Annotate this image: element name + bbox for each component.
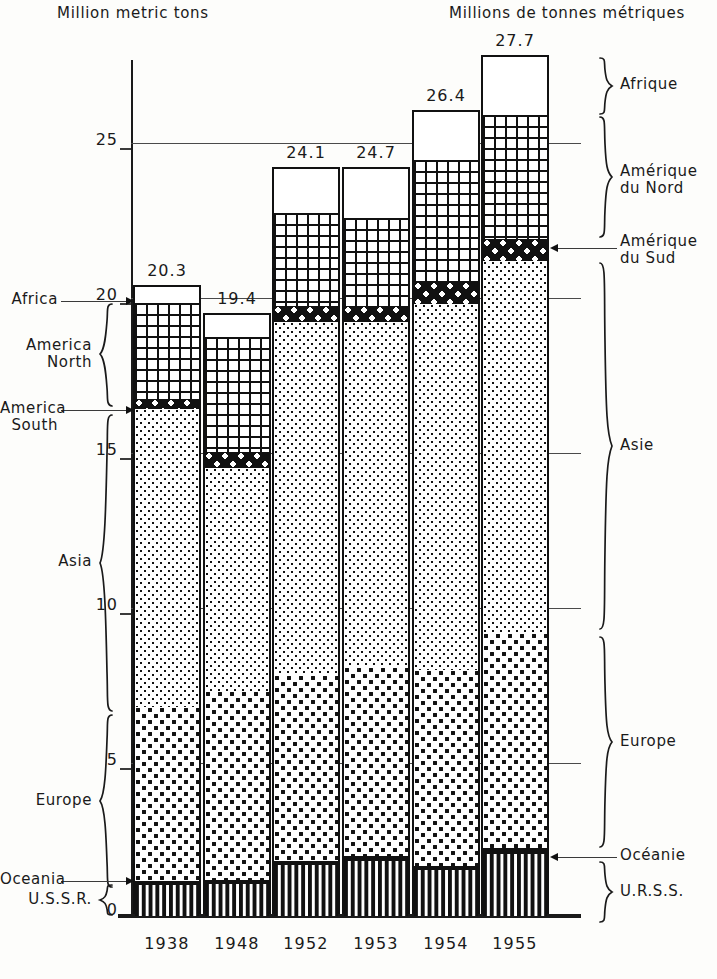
bar-1955-segment-asia [483,261,547,633]
legend-left-leader-africa [61,301,131,302]
y-tick-mark-5 [120,768,131,770]
chart-title-right: Millions de tonnes métriques [449,4,685,22]
bar-1953-segment-ussr [344,861,408,916]
bar-1954-segment-europe [414,670,478,866]
bar-1953-segment-america-south [344,306,408,322]
legend-right-label-amerique-nord-line2: du Nord [620,179,684,197]
bar-1948-segment-europe [205,691,269,880]
legend-left-brace-asia [98,414,114,712]
x-tick-label-1938: 1938 [129,934,205,953]
legend-right-label-amerique-nord-line1: Amérique [620,162,698,180]
bar-1952-total-label: 24.1 [272,143,340,162]
legend-right-label-amerique-nord: Amériquedu Nord [620,163,717,197]
bar-1952-segment-america-north [274,213,338,306]
bar-1953[interactable] [342,167,410,914]
bar-1948-segment-asia [205,468,269,691]
legend-left-label-america-north-line2: North [47,353,92,371]
legend-left-brace-ussr [98,884,114,916]
bar-1953-segment-america-north [344,218,408,306]
bar-1955-total-label: 27.7 [481,31,549,50]
x-tick-label-1952: 1952 [268,934,344,953]
bar-1955-segment-europe [483,633,547,848]
bar-1948-segment-america-south [205,452,269,468]
bar-1953-total-label: 24.7 [342,143,410,162]
bar-1938-segment-ussr [135,885,199,916]
legend-left-label-europe: Europe [0,792,92,809]
bar-1955-segment-america-south [483,239,547,261]
bar-1952-segment-africa [274,169,338,213]
bar-1938[interactable] [133,285,201,914]
bar-1954-total-label: 26.4 [412,86,480,105]
bar-1952-segment-europe [274,675,338,861]
legend-right-label-amerique-sud: Amériquedu Sud [620,233,717,267]
y-tick-mark-10 [120,613,131,615]
bar-1948-total-label: 19.4 [203,289,271,308]
legend-right-brace-amerique-nord [598,116,614,238]
legend-right-brace-europe [598,636,614,848]
x-tick-label-1954: 1954 [408,934,484,953]
bar-1948-segment-america-north [205,337,269,452]
legend-right-label-amerique-sud-line1: Amérique [620,232,698,250]
legend-right-brace-afrique [598,57,614,115]
bar-1938-total-label: 20.3 [133,261,201,280]
legend-right-label-europe: Europe [620,733,717,750]
legend-left-label-america-south-line2: South [11,416,58,434]
legend-left-arrow-america-south [126,406,134,414]
legend-left-label-asia: Asia [0,553,92,570]
legend-left-arrow-africa [126,297,134,305]
x-tick-label-1953: 1953 [338,934,414,953]
bar-1953-segment-europe [344,667,408,856]
legend-right-label-oceanie: Océanie [620,847,717,864]
bar-1954-segment-ussr [414,870,478,916]
legend-left-brace-europe [98,714,114,888]
bar-1953-segment-africa [344,169,408,218]
legend-left-label-america-north: AmericaNorth [0,337,92,371]
legend-right-arrow-amerique-sud [550,244,558,252]
legend-left-leader-oceania [61,881,131,882]
legend-right-label-afrique: Afrique [620,76,717,93]
legend-left-label-america-south-line1: America [0,399,66,417]
chart-canvas: Million metric tons Millions de tonnes m… [0,0,717,979]
bar-1954-segment-america-north [414,160,478,282]
y-tick-mark-25 [120,148,131,150]
bar-1952-segment-asia [274,322,338,675]
bar-1938-segment-america-south [135,399,199,409]
bar-1955-segment-ussr [483,854,547,916]
bar-1954-segment-america-south [414,282,478,304]
legend-right-arrow-oceanie [550,853,558,861]
bar-1948-segment-ussr [205,884,269,916]
bar-1938-segment-america-north [135,303,199,399]
bar-1952[interactable] [272,167,340,914]
bar-1955-segment-africa [483,57,547,115]
bar-1955[interactable] [481,55,549,914]
bar-1938-segment-africa [135,287,199,303]
bar-1954-segment-africa [414,112,478,160]
bar-1948-segment-africa [205,315,269,337]
y-tick-label-25: 25 [78,130,118,149]
legend-left-brace-america-north [98,303,114,407]
legend-left-label-oceania: Oceania [0,871,58,888]
legend-right-leader-amerique-sud [557,248,617,249]
legend-right-label-amerique-sud-line2: du Sud [620,249,676,267]
bar-1954[interactable] [412,110,480,914]
chart-title-left: Million metric tons [57,4,209,22]
legend-left-arrow-oceania [126,877,134,885]
bar-1938-segment-europe [135,707,199,881]
legend-right-brace-asie [598,262,614,630]
legend-right-leader-oceanie [557,857,617,858]
legend-left-label-africa: Africa [0,291,58,308]
bar-1955-segment-america-north [483,115,547,239]
legend-left-label-america-north-line1: America [26,336,92,354]
bar-1948[interactable] [203,313,271,914]
legend-right-label-urss: U.R.S.S. [620,883,717,900]
legend-left-label-america-south: AmericaSouth [0,400,58,434]
x-tick-label-1948: 1948 [199,934,275,953]
bar-1938-segment-asia [135,409,199,707]
bar-1952-segment-ussr [274,865,338,916]
bar-1954-segment-asia [414,304,478,670]
legend-right-label-asie: Asie [620,437,717,454]
legend-right-brace-urss [598,861,614,923]
x-tick-label-1955: 1955 [477,934,553,953]
bar-1953-segment-asia [344,322,408,667]
bar-1952-segment-america-south [274,306,338,322]
